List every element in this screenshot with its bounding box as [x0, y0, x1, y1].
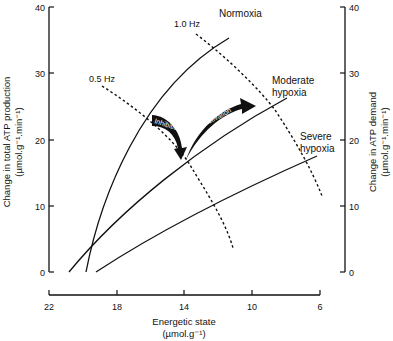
series-0-5hz-dashed — [102, 86, 233, 248]
x-axis-label: Energetic state — [152, 316, 215, 327]
y-left-tick-30: 30 — [35, 69, 45, 79]
y-right-tick-30: 30 — [349, 69, 359, 79]
x-tick-6: 6 — [317, 302, 322, 312]
y-right-tick-20: 20 — [349, 136, 359, 146]
label-1-0hz: 1.0 Hz — [174, 19, 201, 29]
y-left-label: Change in total ATP production — [1, 77, 12, 208]
x-tick-22: 22 — [44, 302, 54, 312]
right-y-axis-title: Change in ATP demand (µmol.g⁻¹.min⁻¹) — [367, 92, 390, 192]
x-axis-units: (µmol.g⁻¹) — [162, 328, 205, 339]
series-severe-hypoxia-line — [96, 156, 317, 272]
y-right-tick-10: 10 — [349, 202, 359, 212]
x-tick-14: 14 — [179, 302, 189, 312]
y-right-units: (µmol.g⁻¹.min⁻¹) — [379, 107, 390, 176]
label-moderate-2: hypoxia — [272, 87, 307, 98]
y-right-tick-40: 40 — [349, 3, 359, 13]
y-right-tick-0: 0 — [349, 268, 354, 278]
inhibition-arrow: Inhibition — [152, 115, 187, 160]
x-tick-10: 10 — [247, 302, 257, 312]
label-normoxia: Normoxia — [219, 8, 262, 19]
x-tick-18: 18 — [112, 302, 122, 312]
y-left-tick-0: 0 — [40, 268, 45, 278]
left-y-axis-title: Change in total ATP production (µmol.g⁻¹… — [1, 77, 24, 208]
activation-arrow: Activation — [186, 98, 256, 160]
activation-label: Activation — [202, 106, 232, 126]
y-right-label: Change in ATP demand — [367, 92, 378, 192]
y-left-tick-40: 40 — [35, 3, 45, 13]
label-severe-1: Severe — [300, 131, 332, 142]
right-y-axis: 40 30 20 10 0 — [340, 3, 359, 278]
left-y-axis: 40 30 20 10 0 — [35, 3, 54, 278]
y-left-tick-10: 10 — [35, 202, 45, 212]
y-left-tick-20: 20 — [35, 136, 45, 146]
label-0-5hz: 0.5 Hz — [89, 74, 116, 84]
label-moderate-1: Moderate — [272, 75, 315, 86]
chart-canvas: 40 30 20 10 0 Change in total ATP produc… — [0, 0, 393, 341]
x-axis: 22 18 14 10 6 Energetic state (µmol.g⁻¹) — [44, 290, 323, 339]
label-severe-2: hypoxia — [300, 143, 335, 154]
y-left-units: (µmol.g⁻¹.min⁻¹) — [13, 107, 24, 176]
